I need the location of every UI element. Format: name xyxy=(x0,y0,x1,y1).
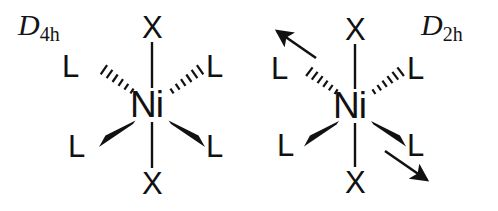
atom-label-l-upper-left: L xyxy=(62,51,79,82)
bond-hashed-upper-right xyxy=(372,67,404,94)
structure-d2h: D2h xyxy=(249,0,498,211)
atom-label-l-upper-right: L xyxy=(206,51,223,82)
bond-network-d2h xyxy=(249,0,498,211)
atom-label-l-upper-right: L xyxy=(407,53,424,84)
atom-label-x-bottom: X xyxy=(345,167,366,198)
atom-label-l-upper-left: L xyxy=(271,53,288,84)
bond-hashed-upper-left xyxy=(101,65,134,93)
atom-label-l-lower-left: L xyxy=(68,131,85,162)
figure-canvas: D4h xyxy=(0,0,498,211)
bond-wedge-lower-right xyxy=(371,121,406,147)
atom-label-l-lower-right: L xyxy=(407,130,424,161)
atom-label-l-lower-left: L xyxy=(277,130,294,161)
atom-label-x-top: X xyxy=(142,12,163,43)
atom-label-x-top: X xyxy=(345,14,366,45)
atom-label-x-bottom: X xyxy=(142,168,163,199)
atom-label-l-lower-right: L xyxy=(206,131,223,162)
atom-label-ni-center: Ni xyxy=(333,87,366,124)
atom-label-ni-center: Ni xyxy=(130,86,163,123)
structure-d4h: D4h xyxy=(0,0,249,211)
bond-hashed-upper-right xyxy=(170,65,203,93)
bond-network-d4h xyxy=(0,0,249,211)
bond-wedge-lower-right xyxy=(169,121,206,148)
